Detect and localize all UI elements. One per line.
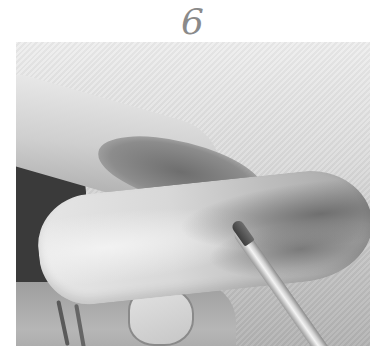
specimen-photo	[16, 42, 370, 346]
step-number-caption: 6	[0, 2, 385, 42]
